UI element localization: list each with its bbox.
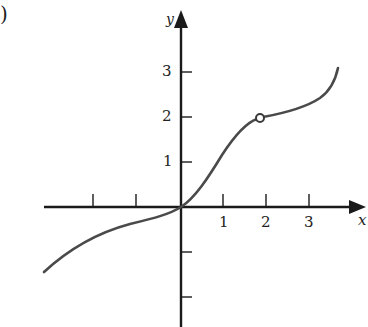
y-ticks [181, 72, 192, 297]
y-tick-label-3: 3 [162, 64, 172, 79]
x-axis-label: x [358, 213, 366, 228]
x-tick-label-2: 2 [261, 215, 271, 230]
open-circle-marker-icon [256, 114, 264, 122]
y-tick-label-2: 2 [162, 109, 172, 124]
x-tick-label-1: 1 [219, 215, 229, 230]
y-axis-arrow-icon [174, 10, 188, 28]
x-ticks [93, 194, 309, 207]
chart-canvas [0, 0, 368, 327]
y-axis-label: y [166, 12, 174, 26]
x-tick-label-3: 3 [304, 215, 314, 230]
y-tick-label-1: 1 [163, 154, 173, 169]
function-curve [44, 68, 338, 272]
panel-label: ) [0, 4, 8, 24]
chart-figure: ) y x 3 2 1 1 2 3 [0, 0, 368, 327]
